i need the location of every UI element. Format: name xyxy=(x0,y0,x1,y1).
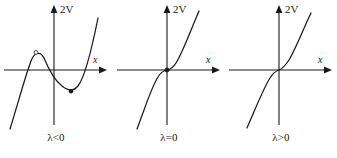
panel-lambda-negative: 2V x λ<0 xyxy=(0,0,112,158)
xaxis-label-lambda-positive: x xyxy=(317,54,323,65)
plot-area-lambda-positive: 2V x xyxy=(225,0,337,130)
y-axis-lambda-positive xyxy=(276,5,283,125)
panel-lambda-zero: 2V x λ=0 xyxy=(113,0,225,158)
xaxis-label-lambda-negative: x xyxy=(92,54,98,65)
figure-cubic-potentials: 2V x λ<0 2V xyxy=(0,0,337,158)
y-axis-lambda-zero xyxy=(164,5,171,125)
inflection-point-marker xyxy=(165,68,169,72)
yaxis-label-lambda-negative: 2V xyxy=(60,3,74,15)
y-axis-lambda-negative xyxy=(51,5,58,125)
local-minimum-marker xyxy=(69,89,73,93)
plot-area-lambda-negative: 2V x xyxy=(0,0,112,130)
caption-lambda-zero: λ=0 xyxy=(113,131,225,143)
xaxis-label-lambda-zero: x xyxy=(205,54,211,65)
caption-lambda-positive: λ>0 xyxy=(225,131,337,143)
local-maximum-marker xyxy=(34,51,38,55)
x-axis-lambda-negative xyxy=(4,66,107,73)
panel-lambda-positive: 2V x λ>0 xyxy=(225,0,337,158)
plot-area-lambda-zero: 2V x xyxy=(113,0,225,130)
yaxis-label-lambda-zero: 2V xyxy=(173,3,187,15)
caption-lambda-negative: λ<0 xyxy=(0,131,112,143)
yaxis-label-lambda-positive: 2V xyxy=(285,3,299,15)
